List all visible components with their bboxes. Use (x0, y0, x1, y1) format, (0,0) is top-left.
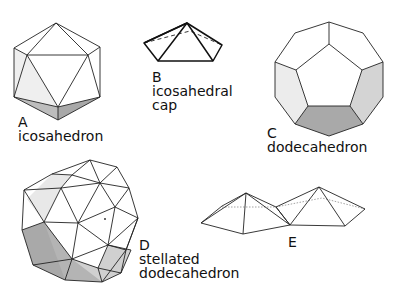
figure-b-name-line1: icosahedral (152, 84, 233, 98)
figure-b-letter: B (152, 70, 162, 84)
figure-d-letter: D (139, 238, 150, 252)
figure-d-name-line2: dodecahedron (139, 266, 240, 280)
figure-b-name-line2: cap (152, 98, 177, 112)
icosahedral-cap-figure (144, 23, 222, 61)
stellated-dodecahedron-figure (22, 160, 138, 282)
figure-e-letter: E (288, 235, 297, 249)
figure-d-name-line1: stellated (139, 252, 200, 266)
figure-c-name: dodecahedron (267, 140, 368, 154)
dodecahedron-figure (275, 22, 383, 136)
joined-caps-figure (201, 187, 365, 234)
figure-c-letter: C (267, 126, 277, 140)
figure-a-letter: A (18, 115, 28, 129)
icosahedron-figure (14, 23, 100, 120)
figure-a-name: icosahedron (18, 129, 103, 143)
